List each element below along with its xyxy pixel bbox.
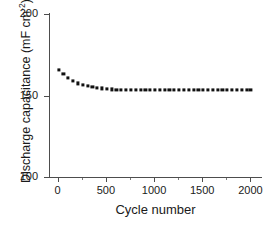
plot-area	[49, 14, 262, 177]
x-tick-label-500: 500	[83, 184, 129, 196]
data-point	[125, 88, 128, 91]
data-point	[245, 88, 248, 91]
chart-figure: 100150200 0500100015002000 Cycle number …	[0, 0, 270, 227]
data-point	[96, 86, 99, 89]
data-point	[149, 88, 152, 91]
data-point	[202, 88, 205, 91]
data-point	[187, 88, 190, 91]
y-axis-title-superscript: -2	[17, 3, 27, 11]
data-point	[100, 87, 103, 90]
data-point	[139, 88, 142, 91]
x-tick-minor-750	[130, 178, 131, 180]
data-point	[105, 88, 108, 91]
data-point	[192, 88, 195, 91]
data-point	[91, 85, 94, 88]
x-tick-label-0: 0	[35, 184, 81, 196]
x-tick-0	[58, 178, 59, 182]
data-point	[81, 84, 84, 87]
x-tick-minor-1750	[226, 178, 227, 180]
y-axis-title: Discharge capacitance (mF cm-2)	[19, 3, 33, 183]
data-point	[226, 88, 229, 91]
data-point	[178, 88, 181, 91]
y-axis-title-close: )	[19, 0, 33, 3]
data-point	[86, 84, 89, 87]
data-point	[249, 88, 252, 91]
x-tick-label-2000: 2000	[227, 184, 270, 196]
data-point	[173, 88, 176, 91]
data-point	[231, 88, 234, 91]
data-point	[206, 88, 209, 91]
y-tick-100	[44, 177, 49, 178]
x-tick-minor-250	[82, 178, 83, 180]
y-axis-line	[49, 13, 50, 178]
data-point	[120, 88, 123, 91]
data-point	[197, 88, 200, 91]
data-point	[163, 88, 166, 91]
data-point	[129, 88, 132, 91]
data-point	[144, 88, 147, 91]
data-point	[235, 88, 238, 91]
data-point	[158, 88, 161, 91]
data-point	[216, 88, 219, 91]
x-tick-1500	[202, 178, 203, 182]
data-point	[72, 80, 75, 83]
data-point	[134, 88, 137, 91]
x-tick-label-1000: 1000	[131, 184, 177, 196]
data-point	[221, 88, 224, 91]
data-point	[115, 88, 118, 91]
y-axis-title-main: Discharge capacitance (mF cm	[19, 11, 33, 183]
data-point	[67, 77, 70, 80]
y-tick-150	[44, 96, 49, 97]
data-point	[153, 88, 156, 91]
x-tick-2000	[250, 178, 251, 182]
data-point	[168, 88, 171, 91]
data-point	[57, 68, 60, 71]
data-point	[62, 73, 65, 76]
data-point	[110, 88, 113, 91]
data-point	[211, 88, 214, 91]
data-point	[76, 82, 79, 85]
data-point	[240, 88, 243, 91]
x-tick-minor-1250	[178, 178, 179, 180]
data-point	[182, 88, 185, 91]
x-tick-1000	[154, 178, 155, 182]
y-tick-200	[44, 14, 49, 15]
x-axis-title: Cycle number	[49, 202, 262, 217]
x-tick-500	[106, 178, 107, 182]
x-tick-label-1500: 1500	[179, 184, 225, 196]
